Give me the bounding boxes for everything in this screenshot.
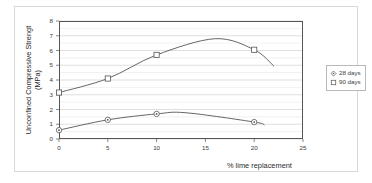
square-marker (154, 52, 159, 57)
chart-legend: 28 days 90 days (326, 65, 366, 91)
square-marker (56, 90, 61, 95)
x-axis-title: % lime replacement (227, 161, 292, 170)
diamond-marker-icon (330, 70, 337, 77)
square-marker-icon (330, 79, 337, 86)
legend-label-90-days: 90 days (339, 79, 361, 85)
data-series (59, 21, 303, 139)
diamond-marker (105, 117, 110, 122)
diamond-marker (252, 119, 257, 124)
legend-label-28-days: 28 days (339, 70, 361, 76)
legend-item-28-days[interactable]: 28 days (330, 69, 361, 78)
diamond-marker (154, 111, 159, 116)
diamond-marker (56, 127, 61, 132)
square-marker (252, 47, 257, 52)
x-tick-label: 25 (300, 145, 307, 151)
y-axis-title: Unconfined Compressive Strengt (MPa) (24, 20, 43, 140)
x-tick-label: 5 (106, 145, 109, 151)
x-tick-label: 20 (251, 145, 258, 151)
y-axis-title-line2: (MPa) (33, 70, 42, 90)
x-tick-label: 10 (153, 145, 160, 151)
x-tick-label: 15 (202, 145, 209, 151)
square-marker (105, 76, 110, 81)
legend-item-90-days[interactable]: 90 days (330, 78, 361, 87)
plot-area: 012345678 0510152025 Unconfined Compress… (59, 21, 303, 139)
y-axis-title-line1: Unconfined Compressive Strengt (24, 26, 33, 134)
x-tick-label: 0 (57, 145, 60, 151)
chart-figure: 012345678 0510152025 Unconfined Compress… (14, 6, 358, 172)
